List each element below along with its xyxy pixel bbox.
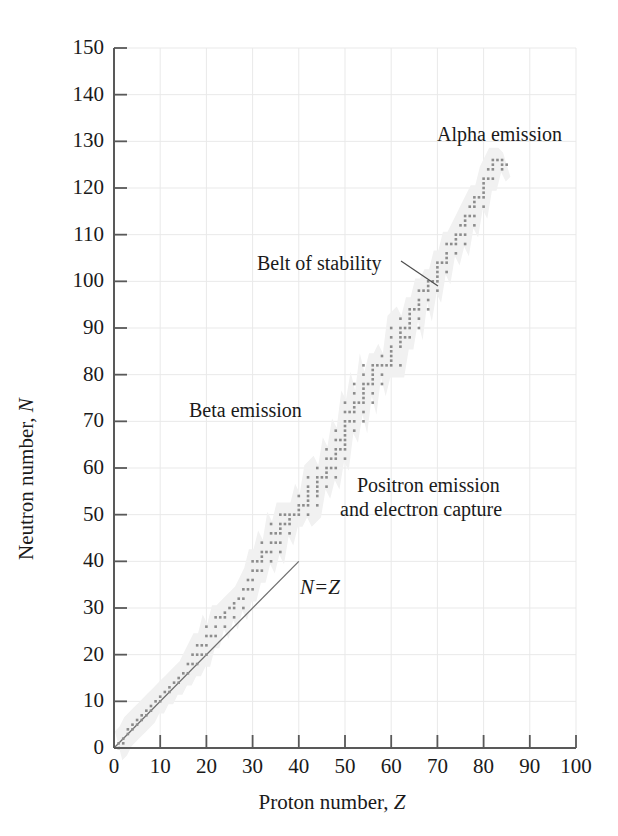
stability-dot: [136, 723, 139, 726]
stability-dot: [385, 364, 388, 367]
y-axis-title: Neutron number, N: [14, 398, 38, 560]
stability-dot: [140, 714, 143, 717]
stability-dot: [284, 523, 287, 526]
stability-dot: [150, 709, 153, 712]
stability-dot: [427, 299, 430, 302]
stability-dot: [334, 476, 337, 479]
stability-dot: [339, 439, 342, 442]
stability-dot: [353, 383, 356, 386]
stability-dot: [390, 359, 393, 362]
stability-dot: [247, 588, 250, 591]
stability-dot: [288, 518, 291, 521]
stability-dot: [237, 597, 240, 600]
stability-dot: [344, 411, 347, 414]
stability-dot: [274, 532, 277, 535]
stability-dot: [362, 420, 365, 423]
stability-dot: [261, 541, 264, 544]
stability-dot: [242, 607, 245, 610]
stability-dot: [390, 336, 393, 339]
stability-dot: [371, 373, 374, 376]
stability-dot: [468, 205, 471, 208]
y-tick-label: 0: [50, 737, 104, 758]
stability-dot: [455, 233, 458, 236]
stability-dot: [307, 490, 310, 493]
stability-dot: [279, 532, 282, 535]
stability-dot: [127, 728, 130, 731]
stability-dot: [122, 742, 125, 745]
stability-dot: [344, 434, 347, 437]
stability-dot: [487, 168, 490, 171]
stability-dot: [376, 364, 379, 367]
stability-dot: [501, 168, 504, 171]
stability-dot: [284, 513, 287, 516]
stability-dot: [307, 495, 310, 498]
stability-dot: [362, 383, 365, 386]
y-tick-label: 50: [50, 504, 104, 525]
stability-dot: [464, 243, 467, 246]
stability-dot: [293, 513, 296, 516]
stability-dot: [427, 308, 430, 311]
stability-dot: [330, 467, 333, 470]
stability-dot: [371, 369, 374, 372]
stability-dot: [316, 490, 319, 493]
stability-dot: [353, 420, 356, 423]
stability-dot: [177, 681, 180, 684]
stability-dot: [505, 163, 508, 166]
stability-dot: [399, 331, 402, 334]
stability-dot: [233, 616, 236, 619]
stability-dot: [482, 191, 485, 194]
stability-dot: [492, 159, 495, 162]
stability-dot: [492, 168, 495, 171]
stability-dot: [131, 728, 134, 731]
stability-dot: [187, 672, 190, 675]
stability-dot: [307, 499, 310, 502]
stability-dot: [205, 653, 208, 656]
stability-dot: [164, 691, 167, 694]
stability-dot: [418, 299, 421, 302]
stability-dot: [492, 177, 495, 180]
stability-dot: [371, 364, 374, 367]
stability-dot: [261, 555, 264, 558]
stability-dot: [205, 635, 208, 638]
stability-dot: [348, 420, 351, 423]
stability-dot: [344, 401, 347, 404]
y-tick-label: 40: [50, 550, 104, 571]
stability-dot: [122, 737, 125, 740]
stability-dot: [450, 243, 453, 246]
stability-dot: [418, 327, 421, 330]
stability-dot: [182, 672, 185, 675]
stability-dot: [348, 411, 351, 414]
y-tick-label: 90: [50, 317, 104, 338]
stability-dot: [265, 551, 268, 554]
stability-dot: [445, 271, 448, 274]
annotation-beta-emission: Beta emission: [189, 399, 302, 422]
stability-dot: [224, 616, 227, 619]
stability-dot: [214, 616, 217, 619]
stability-dot: [344, 425, 347, 428]
stability-dot: [270, 541, 273, 544]
stability-dot: [344, 429, 347, 432]
stability-dot: [381, 373, 384, 376]
stability-dot: [344, 448, 347, 451]
stability-dot: [210, 635, 213, 638]
stability-dot: [307, 513, 310, 516]
annotation-electron-capture: and electron capture: [340, 497, 502, 521]
annotation-belt-of-stability: Belt of stability: [257, 252, 381, 275]
stability-dot: [145, 709, 148, 712]
stability-dot: [233, 602, 236, 605]
stability-dot: [353, 401, 356, 404]
stability-dot: [288, 532, 291, 535]
stability-dot: [353, 411, 356, 414]
stability-dot: [270, 532, 273, 535]
stability-dot: [339, 448, 342, 451]
stability-dot: [371, 401, 374, 404]
stability-dot: [455, 238, 458, 241]
stability-dot: [482, 182, 485, 185]
stability-dot: [399, 327, 402, 330]
stability-dot: [501, 163, 504, 166]
stability-dot: [468, 215, 471, 218]
stability-dot: [441, 261, 444, 264]
stability-dot: [473, 201, 476, 204]
stability-dot: [136, 719, 139, 722]
stability-dot: [159, 700, 162, 703]
